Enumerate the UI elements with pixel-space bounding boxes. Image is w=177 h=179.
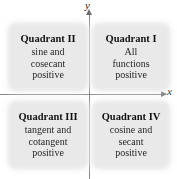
- quadrant-3-line-2: cotangent: [29, 136, 68, 148]
- quadrant-2-line-3: positive: [32, 69, 64, 81]
- quadrant-4-line-2: secant: [119, 136, 144, 148]
- quadrant-4-line-1: cosine and: [110, 124, 153, 136]
- quadrant-4-box: Quadrant IV cosine and secant positive: [95, 104, 167, 166]
- x-axis-line: [0, 94, 163, 95]
- quadrant-2-title: Quadrant II: [20, 33, 75, 45]
- quadrant-1-title: Quadrant I: [105, 33, 156, 45]
- quadrant-3-box: Quadrant III tangent and cotangent posit…: [11, 104, 85, 166]
- y-axis-line: [89, 14, 90, 179]
- quadrant-3-title: Quadrant III: [18, 111, 77, 123]
- quadrant-2-line-1: sine and: [31, 46, 64, 58]
- x-axis-label: x: [167, 86, 172, 97]
- quadrant-1-line-3: positive: [115, 69, 147, 81]
- quadrant-4-title: Quadrant IV: [102, 111, 161, 123]
- quadrant-1-box: Quadrant I All functions positive: [95, 26, 167, 88]
- quadrant-2-line-2: cosecant: [31, 58, 65, 70]
- quadrant-3-line-1: tangent and: [25, 124, 71, 136]
- y-axis-label: y: [85, 0, 90, 11]
- quadrant-sign-diagram: x y Quadrant II sine and cosecant positi…: [0, 0, 177, 179]
- quadrant-4-line-3: positive: [115, 147, 147, 159]
- quadrant-3-line-3: positive: [32, 147, 64, 159]
- quadrant-1-line-2: functions: [112, 58, 149, 70]
- quadrant-1-line-1: All: [125, 46, 138, 58]
- quadrant-2-box: Quadrant II sine and cosecant positive: [11, 26, 85, 88]
